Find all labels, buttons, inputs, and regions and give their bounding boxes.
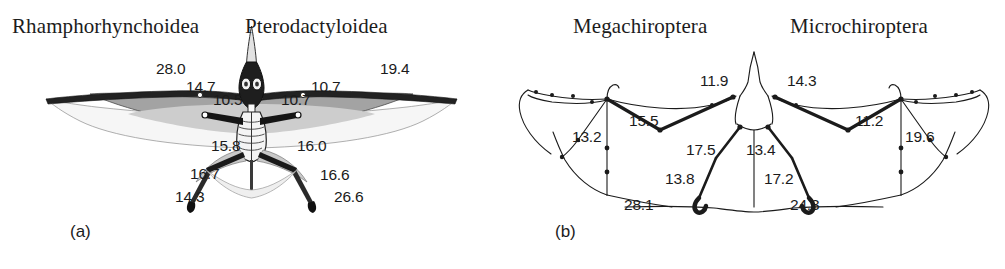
measurement-label: 13.4: [746, 141, 775, 159]
measurement-label: 16.7: [190, 165, 219, 183]
taxon-title-microchiroptera: Microchiroptera: [790, 14, 928, 39]
measurement-label: 15.8: [211, 137, 240, 155]
measurement-label: 14.3: [787, 72, 816, 90]
measurement-label: 24.3: [790, 196, 819, 214]
bat-left-thumb: [607, 85, 619, 99]
measurement-label: 14.3: [175, 188, 204, 206]
measurement-label: 14.7: [186, 78, 215, 96]
measurement-label: 19.6: [905, 128, 934, 146]
bat-left-shin: [699, 158, 716, 198]
measurement-label: 13.2: [572, 128, 601, 146]
measurement-label: 13.8: [665, 170, 694, 188]
measurement-label: 17.2: [764, 170, 793, 188]
bat-left-upper-membrane: [607, 96, 736, 109]
taxon-title-megachiroptera: Megachiroptera: [573, 14, 707, 39]
bat-right-digit3: [901, 90, 980, 99]
bat-right-wing-tip-membrane: [957, 90, 989, 154]
taxon-title-rhamphorhynchoidea: Rhamphorhynchoidea: [12, 14, 199, 39]
measurement-label: 16.6: [320, 166, 349, 184]
taxon-title-pterodactyloidea: Pterodactyloidea: [245, 14, 388, 39]
measurement-label: 11.9: [700, 72, 728, 90]
panel-label-a: (a): [70, 222, 91, 242]
bat-left-leg: [716, 127, 740, 158]
bat-head-ear: [740, 52, 754, 96]
measurement-label: 19.4: [380, 60, 409, 78]
bat-right-wing-outer-edge: [836, 195, 901, 207]
bat-right-upper-membrane: [772, 96, 901, 109]
measurement-label: 16.0: [297, 137, 326, 155]
measurement-label: 10.7: [281, 91, 310, 109]
measurement-label: 17.5: [686, 141, 715, 159]
bat-right-shin: [792, 158, 809, 198]
pterosaur-right-foot: [308, 201, 316, 213]
bat-torso: [735, 96, 773, 124]
measurement-label: 28.1: [624, 196, 653, 214]
measurement-label: 15.5: [629, 112, 658, 130]
bat-left-digit3: [528, 90, 607, 99]
measurement-label: 26.6: [334, 188, 363, 206]
panel-label-b: (b): [555, 222, 576, 242]
measurement-label: 10.5: [213, 91, 242, 109]
bat-left-foot: [695, 198, 706, 213]
bat-left-wing-tip-membrane: [519, 90, 551, 154]
measurement-label: 28.0: [156, 60, 185, 78]
bat-right-thumb: [889, 85, 901, 99]
measurement-label: 10.7: [311, 78, 340, 96]
panel-b-bat: Megachiroptera Microchiroptera 11.9 14.3…: [503, 0, 1005, 269]
measurement-label: 11.2: [855, 112, 883, 130]
pterosaur-tail: [250, 160, 253, 190]
